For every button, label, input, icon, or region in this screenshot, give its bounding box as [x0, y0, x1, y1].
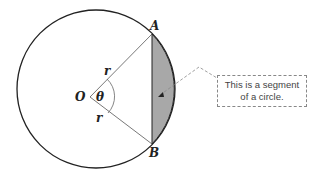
- label-o: O: [75, 90, 86, 104]
- shaded-segment: [152, 34, 174, 144]
- callout-line-2: of a circle.: [218, 91, 306, 103]
- label-a: A: [149, 19, 159, 33]
- radius-oa: [90, 34, 152, 97]
- angle-arc: [107, 79, 115, 113]
- callout-line-1: This is a segment: [218, 79, 306, 91]
- callout-box: This is a segment of a circle.: [217, 75, 307, 107]
- circle: [17, 10, 175, 168]
- label-b: B: [148, 146, 159, 160]
- label-theta: θ: [96, 90, 104, 104]
- label-r-bottom: r: [96, 111, 104, 125]
